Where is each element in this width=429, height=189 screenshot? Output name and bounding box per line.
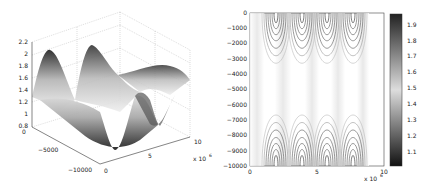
y-tick: −5000 <box>227 85 247 92</box>
y-tick: −2000 <box>227 39 247 46</box>
colorbar-tick: 1.4 <box>407 100 417 107</box>
surface-plot: 2.2 2 1.8 1.6 1.4 1.2 1 0.8 0 −5000 −100… <box>0 0 215 189</box>
x-exponent: 6 <box>209 153 212 158</box>
x-tick: 10 <box>194 138 202 145</box>
x-tick: 0 <box>104 167 108 174</box>
x-tick: 0 <box>248 168 252 175</box>
y-tick: −10000 <box>223 162 247 169</box>
colorbar-tick: 1.3 <box>407 116 417 123</box>
colorbar-tick: 1.9 <box>407 21 417 28</box>
surface-plot-panel: 2.2 2 1.8 1.6 1.4 1.2 1 0.8 0 −5000 −100… <box>0 0 215 189</box>
contour-y-axis: 0 −1000 −2000 −3000 −4000 −5000 −6000 −7… <box>223 9 247 169</box>
x-multiplier: x 10 <box>193 155 206 162</box>
z-tick: 2 <box>24 50 28 57</box>
contour-plot-panel: 0 −1000 −2000 −3000 −4000 −5000 −6000 −7… <box>215 0 429 189</box>
colorbar: 1.9 1.8 1.7 1.6 1.5 1.4 1.3 1.2 1.1 <box>390 14 417 166</box>
colorbar-tick: 1.7 <box>407 52 417 59</box>
y-tick: −6000 <box>227 101 247 108</box>
x-multiplier: x 10 <box>364 175 377 182</box>
colorbar-tick: 1.8 <box>407 37 417 44</box>
colorbar-tick: 1.5 <box>407 84 417 91</box>
y-tick: 0 <box>22 128 26 135</box>
x-exponent: 6 <box>380 173 383 178</box>
y-tick: −1000 <box>227 24 247 31</box>
x-axis: 0 5 10 x 10 6 <box>100 137 212 174</box>
x-tick: 5 <box>148 152 152 159</box>
z-tick: 1.2 <box>18 98 28 105</box>
z-tick: 1.8 <box>18 62 28 69</box>
y-tick: −4000 <box>227 70 247 77</box>
z-tick: 1 <box>24 110 28 117</box>
y-tick: −10000 <box>68 166 92 173</box>
contour-plot: 0 −1000 −2000 −3000 −4000 −5000 −6000 −7… <box>215 0 429 189</box>
y-tick: −3000 <box>227 55 247 62</box>
colorbar-tick: 1.6 <box>407 68 417 75</box>
z-axis: 2.2 2 1.8 1.6 1.4 1.2 1 0.8 <box>18 38 32 129</box>
surface-mesh <box>32 45 190 150</box>
y-tick: −8000 <box>227 131 247 138</box>
z-tick: 1.4 <box>18 86 28 93</box>
y-tick: −7000 <box>227 116 247 123</box>
y-tick: −5000 <box>38 146 58 153</box>
contour-x-axis: 0 5 10 x 10 6 <box>248 168 388 182</box>
x-tick: 5 <box>315 168 319 175</box>
colorbar-tick: 1.1 <box>407 148 417 155</box>
y-tick: −9000 <box>227 147 247 154</box>
y-tick: 0 <box>243 9 247 16</box>
z-tick: 2.2 <box>18 38 28 45</box>
colorbar-tick: 1.2 <box>407 132 417 139</box>
z-tick: 1.6 <box>18 74 28 81</box>
